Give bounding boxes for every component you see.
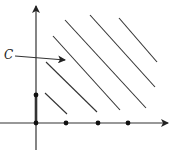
- label-c: C: [4, 49, 13, 61]
- lattice-point-dot-icon: [126, 121, 131, 126]
- axes: [0, 6, 168, 150]
- diagonal-line: [46, 62, 97, 112]
- diagram-canvas: C: [0, 0, 173, 159]
- diagonal-line: [90, 15, 155, 87]
- pointer-arrow-icon: [15, 56, 65, 60]
- lattice-point-dot-icon: [64, 121, 69, 126]
- diagonal-lines: [45, 15, 157, 114]
- pointer-arrow-line: [15, 56, 65, 60]
- diagonal-line: [53, 36, 120, 110]
- lattice-point-dot-icon: [96, 121, 101, 126]
- diagonal-line: [119, 18, 157, 62]
- lattice-diagram: [0, 0, 173, 159]
- lattice-point-dot-icon: [34, 121, 39, 126]
- diagonal-line: [45, 93, 67, 114]
- lattice-point-dot-icon: [34, 93, 39, 98]
